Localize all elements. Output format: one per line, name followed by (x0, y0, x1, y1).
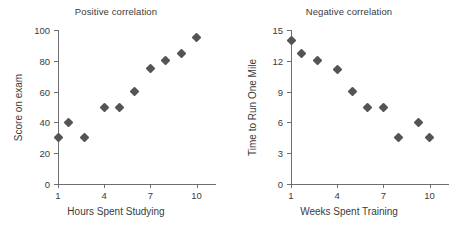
plot-area: 0369121514710 (291, 30, 448, 184)
y-axis-tick-label: 15 (272, 25, 283, 36)
x-axis-tick-label: 1 (288, 190, 293, 201)
y-axis-tick-label: 60 (39, 86, 50, 97)
x-axis-tick: 4 (337, 184, 338, 188)
scatter-point (378, 102, 388, 112)
x-axis-tick-label: 10 (424, 190, 435, 201)
y-axis-tick-label: 100 (34, 25, 50, 36)
y-axis-tick: 15 (287, 30, 291, 31)
x-axis-tick-label: 4 (102, 190, 107, 201)
y-axis-tick: 9 (287, 92, 291, 93)
y-axis-label-text: Score on exam (14, 73, 25, 140)
y-axis-tick: 6 (287, 122, 291, 123)
y-axis-tick-label: 12 (272, 55, 283, 66)
y-axis-label-text: Time to Run One Mile (247, 59, 258, 156)
chart-title: Negative correlation (233, 6, 465, 17)
x-axis-tick: 10 (197, 184, 198, 188)
scatter-point (394, 133, 404, 143)
x-axis-tick-label: 1 (55, 190, 60, 201)
scatter-point (363, 102, 373, 112)
y-axis-tick: 20 (54, 153, 58, 154)
y-axis-tick-label: 9 (278, 86, 283, 97)
scatter-point (286, 35, 296, 45)
y-axis-tick: 100 (54, 30, 58, 31)
y-axis-tick: 40 (54, 122, 58, 123)
scatter-point (192, 33, 202, 43)
scatter-point (312, 56, 322, 66)
chart-title: Positive correlation (0, 6, 232, 17)
scatter-point (348, 87, 358, 97)
y-axis-tick-label: 20 (39, 148, 50, 159)
x-axis-label: Weeks Spent Training (233, 206, 465, 217)
scatter-point (145, 64, 155, 74)
y-axis-tick: 12 (287, 61, 291, 62)
scatter-point (99, 102, 109, 112)
x-axis-line (291, 184, 449, 185)
scatter-point (115, 102, 125, 112)
x-axis-tick-label: 7 (381, 190, 386, 201)
scatter-point (332, 64, 342, 74)
y-axis-label: Time to Run One Mile (245, 30, 259, 184)
x-axis-tick-label: 10 (191, 190, 202, 201)
y-axis-tick-label: 0 (278, 179, 283, 190)
x-axis-tick: 7 (150, 184, 151, 188)
correlation-figure: Positive correlation Score on exam 02040… (0, 0, 465, 234)
scatter-point (297, 49, 307, 59)
y-axis-tick-label: 0 (45, 179, 50, 190)
y-axis-tick: 80 (54, 61, 58, 62)
x-axis-tick: 7 (383, 184, 384, 188)
scatter-point (176, 48, 186, 58)
plot-area: 02040608010014710 (58, 30, 215, 184)
x-axis-tick: 10 (430, 184, 431, 188)
y-axis-tick-label: 6 (278, 117, 283, 128)
x-axis-tick-label: 4 (335, 190, 340, 201)
scatter-point (161, 56, 171, 66)
y-axis-tick-label: 80 (39, 55, 50, 66)
x-axis-tick-label: 7 (148, 190, 153, 201)
scatter-point (414, 117, 424, 127)
scatter-point (64, 117, 74, 127)
scatter-point (53, 133, 63, 143)
y-axis-label: Score on exam (12, 30, 26, 184)
x-axis-tick: 4 (104, 184, 105, 188)
y-axis-tick-label: 3 (278, 148, 283, 159)
x-axis-line (58, 184, 216, 185)
x-axis-label: Hours Spent Studying (0, 206, 232, 217)
x-axis-tick: 1 (58, 184, 59, 188)
chart-panel-positive-correlation: Positive correlation Score on exam 02040… (0, 0, 232, 234)
y-axis-tick: 60 (54, 92, 58, 93)
scatter-point (425, 133, 435, 143)
scatter-point (130, 87, 140, 97)
x-axis-tick: 1 (291, 184, 292, 188)
scatter-point (79, 133, 89, 143)
chart-panel-negative-correlation: Negative correlation Time to Run One Mil… (233, 0, 465, 234)
y-axis-tick-label: 40 (39, 117, 50, 128)
y-axis-tick: 3 (287, 153, 291, 154)
